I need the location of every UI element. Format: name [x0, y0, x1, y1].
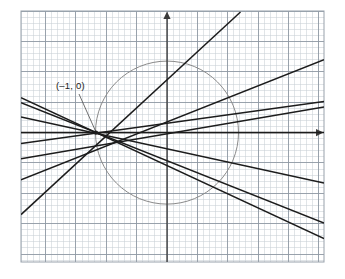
point-label-minus-one-zero: (–1, 0) [56, 81, 85, 91]
graph-figure: (–1, 0) [0, 0, 345, 279]
concurrency-point-marker [94, 130, 98, 134]
coordinate-plot [0, 0, 345, 279]
